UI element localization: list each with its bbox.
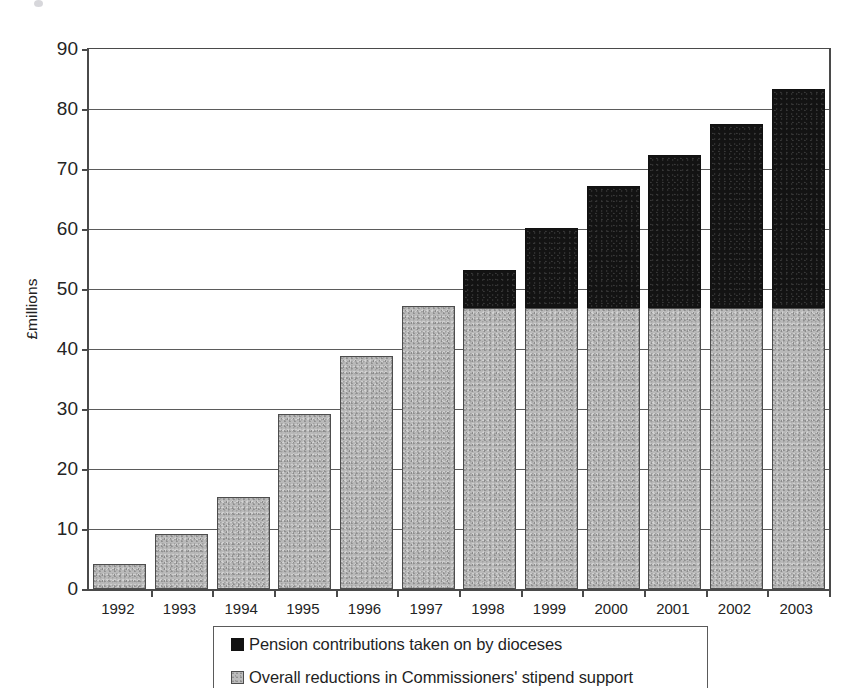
- y-tick-mark: [82, 589, 89, 591]
- bar-segment: [340, 356, 393, 589]
- x-tick-mark: [212, 589, 214, 597]
- legend-swatch-black-icon: [231, 638, 244, 651]
- chart-figure: £millions 9080706050403020100 1992199319…: [0, 0, 862, 688]
- x-tick-mark: [151, 589, 153, 597]
- y-tick-label: 40: [57, 338, 78, 360]
- y-tick-label: 0: [67, 578, 78, 600]
- bar-group: [463, 49, 516, 589]
- bar-segment: [772, 308, 825, 589]
- x-tick-label: 2001: [656, 600, 689, 617]
- bar-group: [587, 49, 640, 589]
- y-tick-mark: [82, 349, 89, 351]
- bar-group: [402, 49, 455, 589]
- x-tick-label: 1999: [533, 600, 566, 617]
- legend-label: Overall reductions in Commissioners' sti…: [249, 668, 633, 687]
- x-tick-label: 2002: [718, 600, 751, 617]
- y-axis-title: £millions: [23, 239, 41, 379]
- bar-segment: [402, 306, 455, 589]
- scan-artifact-speck: [34, 0, 43, 7]
- plot-area: 9080706050403020100: [87, 48, 831, 591]
- x-tick-label: 2003: [779, 600, 812, 617]
- bar-segment: [525, 308, 578, 589]
- legend-item-pension-contributions: Pension contributions taken on by dioces…: [231, 635, 562, 654]
- bar-segment: [648, 155, 701, 308]
- bar-segment: [710, 124, 763, 308]
- bar-group: [340, 49, 393, 589]
- bar-group: [525, 49, 578, 589]
- x-tick-mark: [582, 589, 584, 597]
- x-tick-mark: [644, 589, 646, 597]
- x-tick-mark: [829, 589, 831, 597]
- x-tick-mark: [274, 589, 276, 597]
- bar-segment: [587, 308, 640, 589]
- x-tick-mark: [336, 589, 338, 597]
- x-tick-mark: [459, 589, 461, 597]
- y-tick-mark: [82, 229, 89, 231]
- y-tick-mark: [82, 409, 89, 411]
- bar-group: [93, 49, 146, 589]
- x-tick-mark: [706, 589, 708, 597]
- y-tick-mark: [82, 469, 89, 471]
- bar-segment: [463, 308, 516, 589]
- legend-label: Pension contributions taken on by dioces…: [249, 635, 562, 654]
- y-tick-label: 60: [57, 218, 78, 240]
- y-tick-label: 90: [57, 38, 78, 60]
- bar-segment: [648, 308, 701, 589]
- x-tick-label: 1998: [471, 600, 504, 617]
- bar-segment: [463, 270, 516, 308]
- y-tick-mark: [82, 289, 89, 291]
- bar-group: [155, 49, 208, 589]
- legend-item-overall-reductions: Overall reductions in Commissioners' sti…: [231, 668, 633, 687]
- x-tick-label: 1992: [101, 600, 134, 617]
- bar-segment: [217, 497, 270, 589]
- x-tick-label: 1994: [224, 600, 257, 617]
- bar-group: [278, 49, 331, 589]
- x-tick-label: 1993: [163, 600, 196, 617]
- bar-group: [772, 49, 825, 589]
- bar-segment: [278, 414, 331, 589]
- bar-segment: [93, 564, 146, 589]
- x-tick-mark: [521, 589, 523, 597]
- chart-legend: Pension contributions taken on by dioces…: [213, 626, 708, 688]
- x-tick-label: 1997: [409, 600, 442, 617]
- y-tick-label: 50: [57, 278, 78, 300]
- bar-segment: [710, 308, 763, 589]
- y-tick-mark: [82, 169, 89, 171]
- y-tick-label: 30: [57, 398, 78, 420]
- y-tick-mark: [82, 49, 89, 51]
- bar-segment: [587, 186, 640, 308]
- x-tick-label: 1996: [348, 600, 381, 617]
- x-tick-label: 1995: [286, 600, 319, 617]
- x-tick-mark: [767, 589, 769, 597]
- bar-segment: [772, 89, 825, 308]
- y-tick-label: 70: [57, 158, 78, 180]
- bar-segment: [155, 534, 208, 589]
- y-tick-label: 10: [57, 518, 78, 540]
- x-tick-label: 2000: [594, 600, 627, 617]
- legend-swatch-gray-icon: [231, 671, 244, 684]
- bar-group: [217, 49, 270, 589]
- y-tick-label: 80: [57, 98, 78, 120]
- bar-group: [648, 49, 701, 589]
- bar-segment: [525, 228, 578, 308]
- y-tick-mark: [82, 109, 89, 111]
- y-tick-label: 20: [57, 458, 78, 480]
- y-tick-mark: [82, 529, 89, 531]
- x-tick-mark: [397, 589, 399, 597]
- bar-group: [710, 49, 763, 589]
